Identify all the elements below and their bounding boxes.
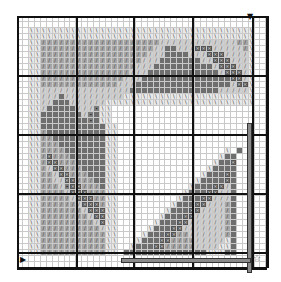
major-vertical-line <box>267 16 269 268</box>
stitch-grid <box>17 16 266 268</box>
center-marker-left-icon: ▶ <box>20 256 26 264</box>
star-corner-icon: ☆ <box>253 254 261 262</box>
stitch-cell <box>260 262 266 268</box>
overlay-bar <box>121 258 251 263</box>
major-horizontal-line <box>17 268 267 270</box>
center-marker-top-icon: ▼ <box>247 13 253 21</box>
overlay-bar <box>247 123 252 273</box>
cross-stitch-chart <box>17 16 267 268</box>
